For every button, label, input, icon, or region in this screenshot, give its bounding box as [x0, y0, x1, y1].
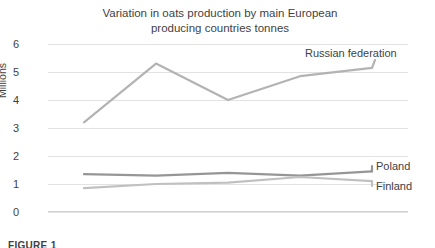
y-tick-label: 5 — [0, 66, 19, 78]
series-label-finland: Finland — [376, 180, 412, 192]
y-tick-label: 0 — [0, 206, 19, 218]
y-tick-label: 3 — [0, 122, 19, 134]
y-tick-label: 2 — [0, 150, 19, 162]
series-line-russian-federation — [84, 64, 372, 123]
series-label-russian-federation: Russian federation — [305, 47, 397, 59]
chart-container: Variation in oats production by main Eur… — [0, 0, 435, 248]
series-leader-russian-federation — [372, 60, 375, 68]
y-tick-label: 6 — [0, 38, 19, 50]
y-tick-label: 4 — [0, 94, 19, 106]
plot-area: 0123456 20102011201220132014 — [48, 44, 408, 212]
chart-title: Variation in oats production by main Eur… — [40, 6, 400, 36]
series-lines — [48, 44, 408, 212]
gridline — [48, 212, 408, 213]
series-line-poland — [84, 171, 372, 175]
series-line-finland — [84, 177, 372, 188]
y-tick-label: 1 — [0, 178, 19, 190]
figure-caption: FIGURE 1 — [8, 240, 57, 248]
series-label-poland: Poland — [376, 160, 410, 172]
